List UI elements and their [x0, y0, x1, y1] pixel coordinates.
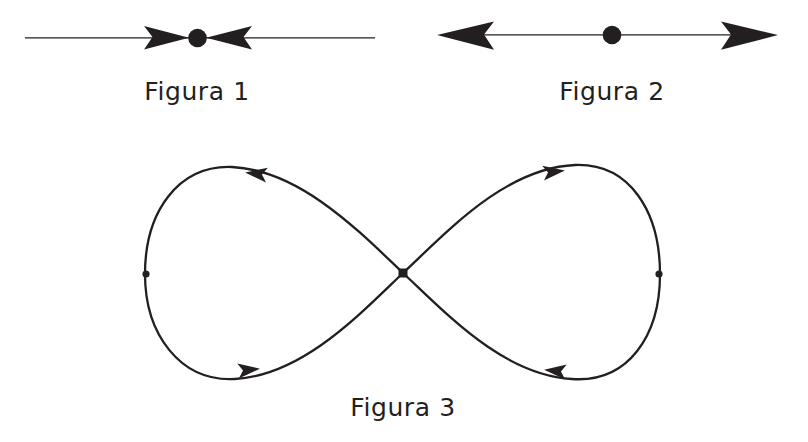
figura-2-equilibrium-dot — [603, 26, 622, 45]
figura-2-graphic — [437, 22, 778, 50]
figura-2-arrow-right-outward-icon — [721, 22, 778, 50]
figura-1-equilibrium-dot — [188, 29, 207, 48]
figura-3-left-lobe — [145, 167, 403, 379]
figura-1-caption: Figura 1 — [97, 79, 297, 104]
figure-sheet: Figura 1 Figura 2 Figura 3 — [0, 0, 808, 442]
figura-3-left-loop-point — [142, 270, 149, 277]
figura-3-right-lobe — [403, 165, 660, 379]
figura-3-crossing-node — [399, 269, 408, 278]
figura-2-arrow-left-outward-icon — [437, 22, 494, 50]
figura-3-markers — [142, 269, 662, 278]
figura-3-caption: Figura 3 — [303, 395, 503, 420]
figura-1-graphic — [25, 26, 375, 50]
figures-canvas — [0, 0, 808, 442]
figura-2-caption: Figura 2 — [512, 79, 712, 104]
figura-3-right-loop-point — [655, 270, 662, 277]
